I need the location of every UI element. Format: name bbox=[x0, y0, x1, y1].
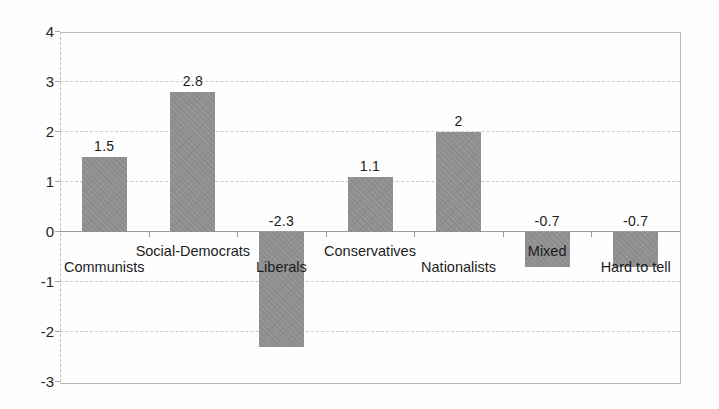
y-axis-tick--3 bbox=[55, 381, 60, 382]
y-axis-tick--2 bbox=[55, 331, 60, 332]
bar-value-label: -0.7 bbox=[503, 213, 592, 229]
bar-conservatives bbox=[348, 177, 393, 232]
y-axis-tick--1 bbox=[55, 281, 60, 282]
y-tick-label-3: 3 bbox=[20, 74, 54, 90]
y-axis-tick-3 bbox=[55, 81, 60, 82]
category-label-0: Communists bbox=[64, 259, 145, 275]
category-axis-tick-3 bbox=[326, 232, 327, 237]
y-axis-tick-1 bbox=[55, 181, 60, 182]
bar-value-label: -2.3 bbox=[237, 213, 326, 229]
category-axis-tick-1 bbox=[149, 232, 150, 237]
category-label-5: Mixed bbox=[528, 243, 567, 259]
bar-liberals bbox=[259, 232, 304, 347]
bar-nationalists bbox=[436, 132, 481, 232]
category-label-3: Conservatives bbox=[324, 243, 416, 259]
bar-value-label: -0.7 bbox=[591, 213, 680, 229]
bar-value-label: 2.8 bbox=[149, 73, 238, 89]
category-label-6: Hard to tell bbox=[601, 259, 671, 275]
y-tick-label-0: 0 bbox=[20, 224, 54, 240]
category-label-2: Liberals bbox=[256, 259, 307, 275]
bar-value-label: 1.5 bbox=[60, 138, 149, 154]
category-label-1: Social-Democrats bbox=[136, 243, 250, 259]
category-label-4: Nationalists bbox=[421, 259, 496, 275]
bar-social-democrats bbox=[170, 92, 215, 232]
bar-communists bbox=[82, 157, 127, 232]
gridline-y--2 bbox=[60, 331, 680, 332]
gridline-y--1 bbox=[60, 281, 680, 282]
bar-value-label: 2 bbox=[414, 113, 503, 129]
y-axis-tick-0 bbox=[55, 231, 60, 232]
category-axis-tick-2 bbox=[237, 232, 238, 237]
y-axis-tick-4 bbox=[55, 31, 60, 32]
category-axis-tick-4 bbox=[414, 232, 415, 237]
y-tick-label-4: 4 bbox=[20, 24, 54, 40]
gridline-y-2 bbox=[60, 131, 680, 132]
y-tick-label--1: -1 bbox=[20, 274, 54, 290]
y-tick-label--3: -3 bbox=[20, 374, 54, 390]
y-tick-label-2: 2 bbox=[20, 124, 54, 140]
y-axis-tick-2 bbox=[55, 131, 60, 132]
category-axis-tick-5 bbox=[503, 232, 504, 237]
category-axis-tick-6 bbox=[591, 232, 592, 237]
scanned-bar-chart-page: 43210-1-2-31.5Communists2.8Social-Democr… bbox=[0, 0, 719, 409]
y-tick-label-1: 1 bbox=[20, 174, 54, 190]
y-tick-label--2: -2 bbox=[20, 324, 54, 340]
bar-value-label: 1.1 bbox=[326, 158, 415, 174]
